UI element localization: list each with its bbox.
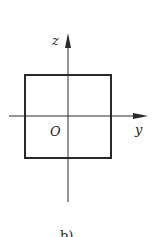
y-axis-label: y [134, 122, 143, 137]
z-axis-arrow-icon [65, 33, 71, 48]
origin-label: O [50, 124, 61, 139]
z-axis-label: z [51, 33, 59, 48]
y-axis-arrow-icon [133, 113, 148, 119]
diagram-canvas: z O y b) [0, 0, 164, 237]
figure-caption: b) [60, 228, 73, 237]
